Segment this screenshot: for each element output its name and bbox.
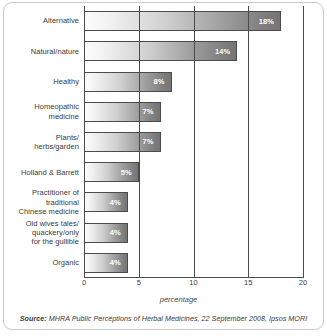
bar-rows: Alternative18%Natural/nature14%Healthy8%… <box>0 6 327 278</box>
bar-row: Holland & Barrett5% <box>0 157 327 187</box>
bar-category-label: Alternative <box>0 16 84 25</box>
x-axis-tick-labels: 05101520 <box>0 278 327 292</box>
bar-cell: 4% <box>84 218 327 248</box>
bar-row: Alternative18% <box>0 6 327 36</box>
bar-row: Healthy8% <box>0 66 327 96</box>
source-label: Source: <box>20 314 47 323</box>
bar-value-label: 14% <box>215 47 236 56</box>
bar-cell: 5% <box>84 157 327 187</box>
bar-row: Practitioner oftraditionalChinese medici… <box>0 187 327 217</box>
bar-cell: 18% <box>84 6 327 36</box>
chart-plot-area: Alternative18%Natural/nature14%Healthy8%… <box>0 6 327 278</box>
bar-row: Old wives tales/quackery/onlyfor the gul… <box>0 218 327 248</box>
bar-value-label: 8% <box>154 77 171 86</box>
bar: 5% <box>84 162 139 182</box>
bar-cell: 4% <box>84 187 327 217</box>
bar-row: Natural/nature14% <box>0 36 327 66</box>
source-text: MHRA Public Perceptions of Herbal Medici… <box>47 314 308 323</box>
bar-row: Plants/herbs/garden7% <box>0 127 327 157</box>
bar-category-label: Organic <box>0 258 84 267</box>
bar: 7% <box>84 132 161 152</box>
bar-value-label: 4% <box>110 198 127 207</box>
bar-category-label: Plants/herbs/garden <box>0 133 84 152</box>
bar-cell: 8% <box>84 66 327 96</box>
bar-value-label: 4% <box>110 258 127 267</box>
bar: 4% <box>84 192 128 212</box>
bar-category-label: Homeopathicmedicine <box>0 102 84 121</box>
bar-row: Homeopathicmedicine7% <box>0 97 327 127</box>
bar-value-label: 7% <box>143 137 160 146</box>
bar-category-label: Old wives tales/quackery/onlyfor the gul… <box>0 219 84 247</box>
bar-value-label: 7% <box>143 107 160 116</box>
bar-value-label: 5% <box>121 168 138 177</box>
x-axis-tick-label: 15 <box>244 278 252 287</box>
bar-cell: 4% <box>84 248 327 278</box>
bar-category-label: Healthy <box>0 77 84 86</box>
x-axis-title-text: percentage <box>130 295 198 304</box>
bar-value-label: 4% <box>110 228 127 237</box>
bar-cell: 14% <box>84 36 327 66</box>
chart-figure: Alternative18%Natural/nature14%Healthy8%… <box>0 0 327 336</box>
bar: 4% <box>84 253 128 273</box>
bar: 7% <box>84 102 161 122</box>
x-axis-tick-label: 20 <box>299 278 307 287</box>
x-axis-title: percentage <box>0 295 327 304</box>
bar: 8% <box>84 72 172 92</box>
bar: 14% <box>84 41 237 61</box>
source-note: Source: MHRA Public Perceptions of Herba… <box>0 314 327 323</box>
x-axis-tick-label: 10 <box>189 278 197 287</box>
bar-value-label: 18% <box>259 17 280 26</box>
bar: 18% <box>84 11 281 31</box>
bar-row: Organic4% <box>0 248 327 278</box>
x-axis-tick-label: 0 <box>82 278 86 287</box>
bar-cell: 7% <box>84 97 327 127</box>
x-axis-tick-label: 5 <box>137 278 141 287</box>
bar: 4% <box>84 223 128 243</box>
bar-cell: 7% <box>84 127 327 157</box>
bar-category-label: Holland & Barrett <box>0 168 84 177</box>
bar-category-label: Natural/nature <box>0 47 84 56</box>
bar-category-label: Practitioner oftraditionalChinese medici… <box>0 188 84 216</box>
